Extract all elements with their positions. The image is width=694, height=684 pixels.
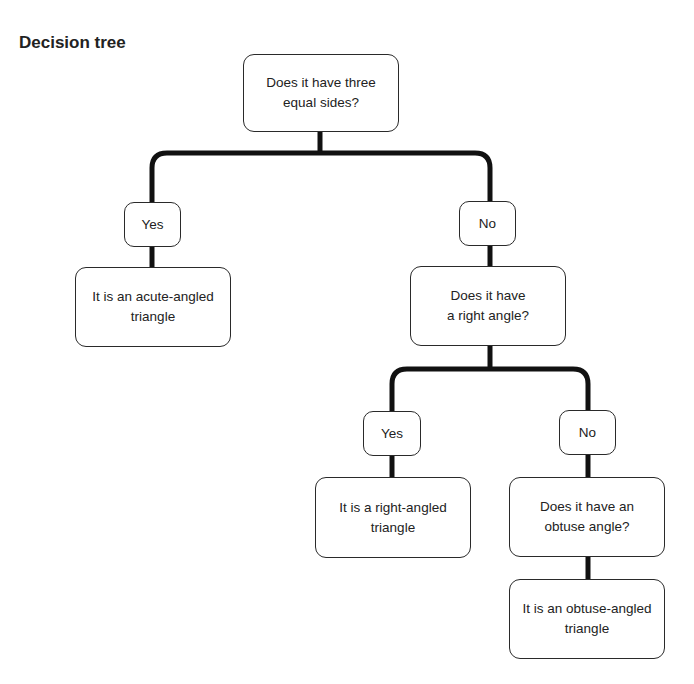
branch-label-no: No <box>459 201 516 246</box>
branch-label-yes-2: Yes <box>363 411 421 456</box>
node-text: It is an acute-angled triangle <box>92 287 214 327</box>
node-text: It is a right-angled triangle <box>339 498 446 538</box>
label-text: Yes <box>381 426 403 441</box>
branch-label-no-2: No <box>559 410 616 455</box>
answer-node-right: It is a right-angled triangle <box>315 477 471 558</box>
node-text: Does it have a right angle? <box>447 286 529 326</box>
question-node-right-angle: Does it have a right angle? <box>410 266 566 346</box>
label-text: No <box>479 216 496 231</box>
question-node-obtuse: Does it have an obtuse angle? <box>509 477 665 557</box>
answer-node-acute: It is an acute-angled triangle <box>75 267 231 347</box>
node-text: Does it have an obtuse angle? <box>540 497 634 537</box>
answer-node-obtuse: It is an obtuse-angled triangle <box>509 579 665 659</box>
branch-label-yes: Yes <box>124 202 181 247</box>
label-text: No <box>579 425 596 440</box>
node-text: It is an obtuse-angled triangle <box>522 599 651 639</box>
question-node-equal-sides: Does it have three equal sides? <box>243 54 399 132</box>
node-text: Does it have three equal sides? <box>266 73 376 113</box>
label-text: Yes <box>141 217 163 232</box>
